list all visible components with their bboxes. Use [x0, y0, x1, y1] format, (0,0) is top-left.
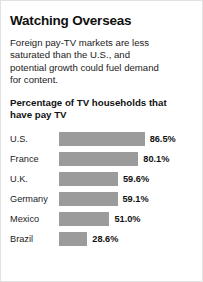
table-row: Germany 59.1%	[10, 189, 193, 209]
bar-track: 59.6%	[59, 172, 193, 186]
table-row: Mexico 51.0%	[10, 209, 193, 229]
bar-track: 28.6%	[59, 232, 193, 246]
infographic-panel: Watching Overseas Foreign pay-TV markets…	[0, 0, 203, 282]
bar-track: 59.1%	[59, 192, 193, 206]
bar-fill	[59, 212, 109, 226]
bar-fill	[59, 232, 87, 246]
bar-category-label: Germany	[10, 194, 59, 204]
bar-category-label: Mexico	[10, 214, 59, 224]
bar-value-label: 59.6%	[123, 174, 149, 184]
summary-text: Foreign pay-TV markets are less saturate…	[10, 37, 162, 86]
bar-fill	[59, 152, 138, 166]
bar-value-label: 59.1%	[123, 194, 149, 204]
bar-value-label: 80.1%	[143, 154, 169, 164]
bar-value-label: 28.6%	[92, 234, 118, 244]
chart-title: Percentage of TV households that have pa…	[10, 97, 170, 120]
bar-fill	[59, 132, 145, 146]
bar-chart: U.S. 86.5% France 80.1% U.K. 59.6% Germa…	[10, 129, 193, 249]
bar-fill	[59, 172, 118, 186]
bar-category-label: France	[10, 154, 59, 164]
bar-value-label: 86.5%	[150, 134, 176, 144]
table-row: U.K. 59.6%	[10, 169, 193, 189]
bar-value-label: 51.0%	[114, 214, 140, 224]
page-title: Watching Overseas	[10, 13, 193, 28]
bar-category-label: U.S.	[10, 134, 59, 144]
bar-category-label: U.K.	[10, 174, 59, 184]
table-row: U.S. 86.5%	[10, 129, 193, 149]
bar-fill	[59, 192, 118, 206]
table-row: Brazil 28.6%	[10, 229, 193, 249]
table-row: France 80.1%	[10, 149, 193, 169]
bar-track: 51.0%	[59, 212, 193, 226]
bar-track: 80.1%	[59, 152, 193, 166]
bar-track: 86.5%	[59, 132, 193, 146]
bar-category-label: Brazil	[10, 234, 59, 244]
